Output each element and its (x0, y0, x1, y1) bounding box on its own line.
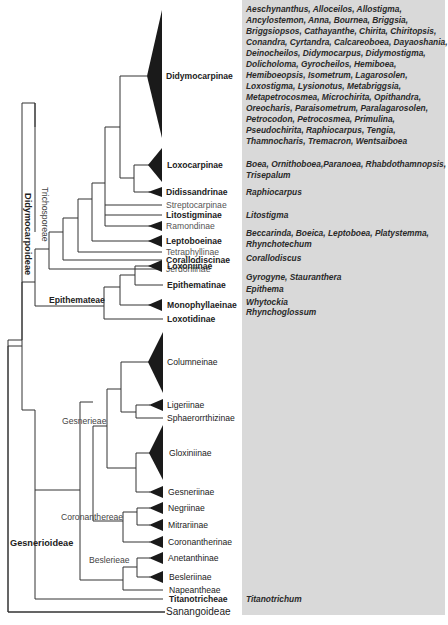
phylogenetic-tree: Didymocarpoideae Trichosporeae Epithemat… (0, 0, 448, 625)
taxon-sphaerorrthizinae: Sphaerorrthizinae (167, 413, 235, 423)
tree-branches (8, 103, 165, 612)
taxon-didymocarpinae: Didymocarpinae (166, 71, 233, 81)
taxon-gloxiniinae: Gloxiniinae (169, 448, 212, 458)
genera-didymocarpinae: Aeschynanthus, Alloceilos, Allostigma, A… (245, 4, 448, 146)
label-gesnerioideae: Gesnerioideae (10, 538, 73, 548)
genera-lists: Aeschynanthus, Alloceilos, Allostigma, A… (245, 4, 448, 604)
genera-line: Briggsiopsos, Cathayanthe, Chirita, Chir… (246, 26, 436, 36)
triangle-monophyllaeinae (148, 299, 162, 311)
genera-leptoboeinae: Beccarinda, Boeica, Leptoboea, Platystem… (246, 228, 429, 249)
label-beslerieae: Beslerieae (89, 555, 130, 565)
triangle-coronantherinae (149, 536, 163, 548)
triangle-besleriinae (149, 571, 163, 583)
genera-monophyllaeinae: Whytockia (246, 297, 288, 307)
taxon-streptocarpinae: Streptocarpinae (166, 200, 227, 210)
genera-line: Aeschynanthus, Alloceilos, Allostigma, (245, 4, 402, 14)
genera-line: Hemiboeopsis, Isometrum, Lagarosolen, (246, 70, 408, 80)
taxon-negriinae: Negriinae (168, 503, 205, 513)
triangle-leptoboeinae (148, 235, 162, 247)
triangle-negriinae (149, 502, 163, 514)
taxon-titanotricheae: Titanotricheae (169, 594, 228, 604)
taxon-sanangoideae: Sanangoideae (166, 606, 231, 617)
triangle-anetanthinae (149, 552, 163, 564)
clade-triangles (147, 10, 163, 583)
taxon-anetanthinae: Anetanthinae (168, 553, 219, 563)
taxon-leptoboeinae: Leptoboeinae (166, 236, 222, 246)
genera-loxotidinae: Rhynchoglossum (246, 307, 317, 317)
taxon-didissandrinae: Didissandrinae (166, 187, 228, 197)
genera-line: Trisepalum (246, 170, 291, 180)
genera-line: Rhynchotechum (246, 239, 312, 249)
genera-corallodiscinae: Corallodiscus (246, 253, 302, 263)
triangle-didymocarpinae (147, 10, 162, 138)
genera-line: Deinocheilos, Didymocarpus, Didymostigma… (246, 48, 426, 58)
taxon-ramondinae: Ramondinae (166, 221, 215, 231)
taxon-loxocarpinae: Loxocarpinae (167, 160, 223, 170)
tree-structure (8, 76, 165, 612)
taxon-litostigminae: Litostigminae (166, 210, 222, 220)
label-gesnerieae: Gesnerieae (62, 416, 107, 426)
genera-loxoniinae: Gyrogyne, Stauranthera (246, 272, 342, 282)
taxon-loxotidinae: Loxotidinae (167, 314, 215, 324)
triangle-loxocarpinae (148, 148, 162, 182)
taxon-epithematinae: Epithematinae (167, 280, 226, 290)
triangle-columneinae (148, 332, 163, 393)
triangle-mitrariinae (149, 519, 163, 531)
label-trichosporeae: Trichosporeae (40, 187, 50, 242)
triangle-ramondinae (148, 221, 162, 231)
genera-line: Boea, Ornithoboea,Paranoea, Rhabdothamno… (246, 159, 446, 169)
taxon-gesneriinae: Gesneriinae (168, 487, 215, 497)
genera-line: Conandra, Cyrtandra, Calcareoboea, Dayao… (246, 37, 448, 47)
genera-line: Beccarinda, Boeica, Leptoboea, Platystem… (246, 228, 429, 238)
triangle-loxoniinae (148, 260, 162, 272)
label-epithemateae: Epithemateae (49, 295, 105, 305)
taxon-ligeriinae: Ligeriinae (167, 400, 204, 410)
genera-didissandrinae: Raphiocarpus (246, 187, 302, 197)
genera-epithematinae: Epithema (246, 284, 284, 294)
genera-line: Oreocharis, Paraisometrum, Paralagarosol… (246, 103, 428, 113)
taxon-monophyllaeinae: Monophyllaeinae (167, 300, 237, 310)
taxon-besleriinae: Besleriinae (169, 572, 212, 582)
genera-line: Petrocodon, Petrocosmea, Primulina, (246, 114, 395, 124)
genera-line: Metapetrocosmea, Microchirita, Opithandr… (246, 92, 421, 102)
taxon-coronantherinae: Coronantherinae (168, 537, 232, 547)
group-labels: Didymocarpoideae Trichosporeae Epithemat… (10, 187, 130, 565)
genera-titanotricheae: Titanotrichum (246, 594, 302, 604)
triangle-gloxiniinae (149, 425, 163, 480)
genera-line: Pseudochirita, Raphiocarpus, Tengia, (246, 125, 396, 135)
taxon-columneinae: Columneinae (167, 357, 218, 367)
taxon-loxoniinae: Loxoniinae (167, 261, 213, 271)
triangle-ligeriinae (149, 399, 163, 411)
genera-line: Dolicholoma, Gyrocheilos, Hemiboea, (246, 59, 396, 69)
genera-line: Ancylostemon, Anna, Bournea, Briggsia, (245, 15, 408, 25)
genera-loxocarpinae: Boea, Ornithoboea,Paranoea, Rhabdothamno… (246, 159, 446, 180)
taxon-mitrariinae: Mitrariinae (168, 520, 208, 530)
genera-litostigminae: Litostigma (246, 210, 289, 220)
genera-line: Loxostigma, Lysionotus, Metabriggsia, (246, 81, 401, 91)
label-didymocarpoideae: Didymocarpoideae (23, 193, 33, 275)
genera-line: Thamnocharis, Tremacron, Wentsaiboea (246, 136, 408, 146)
triangle-didissandrinae (148, 187, 162, 197)
label-coronanthereae: Coronanthereae (61, 512, 123, 522)
triangle-gesneriinae (149, 486, 163, 498)
taxon-labels: Didymocarpinae Loxocarpinae Didissandrin… (166, 71, 237, 617)
